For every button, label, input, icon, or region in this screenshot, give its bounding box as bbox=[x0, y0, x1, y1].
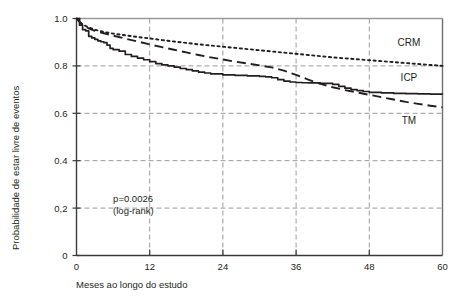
series-label-tm: TM bbox=[402, 115, 416, 126]
x-tick-label-24: 24 bbox=[218, 261, 229, 272]
series-label-icp: ICP bbox=[401, 72, 418, 83]
curve-icp bbox=[77, 19, 443, 95]
survival-curve-chart: 01224364860 00,20.40.60.81.0 CRMICPTM p=… bbox=[0, 0, 469, 298]
x-axis-tick-labels: 01224364860 bbox=[74, 261, 448, 272]
y-tick-label-0-2: 0,2 bbox=[54, 203, 67, 214]
y-axis-title: Probabilidade de estar livre de eventos bbox=[10, 86, 21, 250]
vertical-gridlines bbox=[150, 19, 370, 256]
y-tick-label-0: 0 bbox=[62, 250, 67, 261]
annotation-line-2: (log-rank) bbox=[113, 205, 154, 216]
series-label-crm: CRM bbox=[398, 37, 421, 48]
x-tick-label-12: 12 bbox=[144, 261, 155, 272]
series-curves bbox=[77, 19, 443, 108]
x-tick-label-36: 36 bbox=[291, 261, 302, 272]
y-tick-label-0-8: 0.8 bbox=[54, 60, 67, 71]
curve-crm bbox=[77, 19, 443, 66]
annotation-p-value: p=0.0026(log-rank) bbox=[113, 193, 154, 216]
series-labels: CRMICPTM bbox=[398, 37, 421, 126]
kaplan-meier-figure: 01224364860 00,20.40.60.81.0 CRMICPTM p=… bbox=[0, 0, 469, 298]
x-axis-title: Meses ao longo do estudo bbox=[76, 279, 187, 290]
x-axis-ticks bbox=[150, 250, 370, 256]
y-tick-label-1: 1.0 bbox=[54, 13, 67, 24]
horizontal-gridlines bbox=[77, 66, 443, 208]
annotation-line-1: p=0.0026 bbox=[113, 193, 153, 204]
y-axis-tick-labels: 00,20.40.60.81.0 bbox=[54, 13, 67, 261]
x-tick-label-60: 60 bbox=[437, 261, 448, 272]
y-tick-label-0-6: 0.6 bbox=[54, 108, 67, 119]
y-tick-label-0-4: 0.4 bbox=[54, 155, 67, 166]
x-tick-label-48: 48 bbox=[364, 261, 375, 272]
statistical-annotation: p=0.0026(log-rank) bbox=[113, 193, 154, 216]
x-tick-label-0: 0 bbox=[74, 261, 79, 272]
curve-tm bbox=[77, 19, 443, 108]
